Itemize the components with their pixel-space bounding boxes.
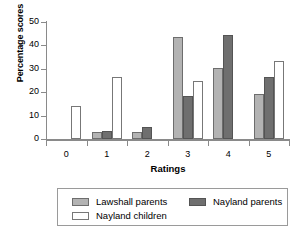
bar (274, 61, 284, 139)
plot-area (46, 22, 289, 139)
legend-item-nayland-children: Nayland children (72, 210, 167, 221)
x-tick-label: 4 (213, 149, 243, 159)
y-tick-label: 0 (5, 134, 39, 143)
x-axis-title: Ratings (46, 163, 290, 174)
x-tick-label: 0 (51, 149, 81, 159)
legend-item-lawshall-parents: Lawshall parents (72, 196, 167, 207)
bar (254, 94, 264, 139)
bar (173, 37, 183, 139)
x-tick-label: 1 (92, 149, 122, 159)
x-tick-label: 5 (254, 149, 284, 159)
bar (71, 106, 81, 139)
bar (213, 68, 223, 139)
bar (132, 132, 142, 139)
x-tick-mark (87, 141, 88, 146)
bar (92, 132, 102, 139)
bar (223, 35, 233, 139)
legend: Lawshall parents Nayland children Naylan… (57, 188, 288, 226)
y-tick-label: 10 (5, 111, 39, 120)
legend-swatch-icon (72, 212, 89, 220)
legend-label: Lawshall parents (96, 196, 167, 207)
bar-chart: Percentage scores 01020304050 012345 Rat… (0, 0, 307, 234)
legend-label: Nayland parents (213, 196, 282, 207)
x-tick-mark (289, 141, 290, 146)
legend-swatch-icon (189, 198, 206, 206)
x-tick-mark (168, 141, 169, 146)
legend-swatch-icon (72, 198, 89, 206)
x-tick-mark (127, 141, 128, 146)
bar (183, 96, 193, 139)
y-tick-label: 20 (5, 87, 39, 96)
x-tick-label: 3 (173, 149, 203, 159)
y-tick-label: 30 (5, 64, 39, 73)
x-tick-mark (249, 141, 250, 146)
bar (193, 81, 203, 139)
x-tick-label: 2 (132, 149, 162, 159)
y-tick-label: 40 (5, 40, 39, 49)
x-tick-mark (208, 141, 209, 146)
y-tick-mark (41, 139, 47, 140)
bar (264, 77, 274, 139)
bar (112, 77, 122, 139)
bar (142, 127, 152, 139)
x-tick-mark (46, 141, 47, 146)
legend-item-nayland-parents: Nayland parents (189, 196, 282, 207)
y-tick-label: 50 (5, 17, 39, 26)
legend-label: Nayland children (96, 210, 167, 221)
bar (102, 131, 112, 139)
